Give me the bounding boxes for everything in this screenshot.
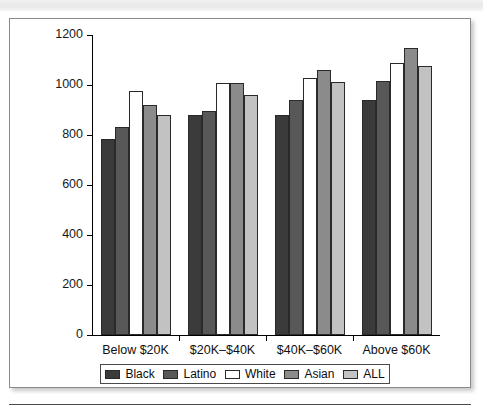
y-axis-tick-label: 600	[62, 177, 83, 191]
bar-all[interactable]	[331, 82, 345, 335]
bar-asian[interactable]	[143, 105, 157, 335]
bar-black[interactable]	[362, 100, 376, 335]
y-axis-tick: 0	[87, 335, 92, 336]
plot-area: 020040060080010001200 Below $20K$20K–$40…	[10, 19, 470, 387]
legend-swatch-icon	[105, 370, 120, 379]
bar-asian[interactable]	[317, 70, 331, 335]
chart-legend: BlackLatinoWhiteAsianALL	[100, 364, 390, 384]
y-axis-tick-label: 0	[76, 327, 83, 341]
y-axis-tick-label: 1000	[55, 77, 83, 91]
bar-black[interactable]	[101, 139, 115, 335]
bar-all[interactable]	[418, 66, 432, 335]
legend-item[interactable]: ALL	[343, 367, 384, 381]
bar-white[interactable]	[303, 78, 317, 336]
legend-item-label: Asian	[304, 367, 334, 381]
legend-swatch-icon	[163, 370, 178, 379]
x-axis-tick	[266, 336, 267, 341]
bar-group	[101, 35, 171, 335]
legend-item[interactable]: Black	[105, 367, 154, 381]
y-axis-tick-label: 400	[62, 227, 83, 241]
y-axis-tick-label: 800	[62, 127, 83, 141]
bar-group	[362, 35, 432, 335]
legend-swatch-icon	[225, 370, 240, 379]
y-axis-tick-label: 1200	[55, 27, 83, 41]
bar-black[interactable]	[275, 115, 289, 335]
page-top-strip	[0, 0, 483, 11]
x-axis-category-label: Below $20K	[92, 343, 179, 357]
bar-asian[interactable]	[230, 83, 244, 336]
bar-black[interactable]	[188, 115, 202, 335]
bar-white[interactable]	[216, 83, 230, 335]
legend-swatch-icon	[284, 370, 299, 379]
legend-item[interactable]: Asian	[284, 367, 334, 381]
chart-figure: 020040060080010001200 Below $20K$20K–$40…	[9, 18, 471, 388]
bar-asian[interactable]	[404, 48, 418, 335]
legend-item-label: ALL	[363, 367, 384, 381]
bar-group	[275, 35, 345, 335]
legend-swatch-icon	[343, 370, 358, 379]
bar-all[interactable]	[244, 95, 258, 336]
bar-latino[interactable]	[376, 81, 390, 335]
footer-rule	[9, 404, 471, 405]
y-axis-tick-label: 200	[62, 277, 83, 291]
x-axis-category-label: Above $60K	[353, 343, 440, 357]
legend-item-label: Black	[125, 367, 154, 381]
bar-latino[interactable]	[202, 111, 216, 335]
legend-item[interactable]: White	[225, 367, 276, 381]
bar-latino[interactable]	[115, 127, 129, 335]
bar-group	[188, 35, 258, 335]
legend-item-label: Latino	[183, 367, 216, 381]
bar-white[interactable]	[390, 63, 404, 335]
bar-all[interactable]	[157, 115, 171, 335]
x-axis-category-label: $20K–$40K	[179, 343, 266, 357]
legend-item-label: White	[245, 367, 276, 381]
bar-series-container	[92, 35, 440, 335]
bar-latino[interactable]	[289, 100, 303, 335]
x-axis-category-label: $40K–$60K	[266, 343, 353, 357]
legend-item[interactable]: Latino	[163, 367, 216, 381]
x-axis-tick	[353, 336, 354, 341]
bar-white[interactable]	[129, 91, 143, 335]
x-axis-tick	[179, 336, 180, 341]
